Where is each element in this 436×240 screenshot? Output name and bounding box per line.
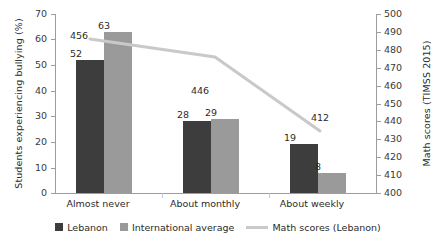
x-axis-category-label-about-weekly: About weekly xyxy=(254,198,370,209)
y-axis-right-tick-label: 420 xyxy=(384,152,414,162)
y-right-tick xyxy=(377,121,381,122)
bar-international-about-monthly xyxy=(211,119,239,193)
y-axis-left-tick-label: 70 xyxy=(21,9,47,19)
y-right-tick xyxy=(377,50,381,51)
chart-container: Students experiencing bullying (%) 70 60… xyxy=(0,0,436,240)
y-right-tick xyxy=(377,32,381,33)
line-value-label: 456 xyxy=(62,30,96,41)
legend-label: Math scores (Lebanon) xyxy=(272,222,380,233)
legend-label: International average xyxy=(132,222,235,233)
y-axis-left-tick-label: 40 xyxy=(21,86,47,96)
y-axis-left-tick-label: 10 xyxy=(21,163,47,173)
bar-value-label: 19 xyxy=(275,132,305,143)
bar-international-almost-never xyxy=(104,32,132,193)
y-right-tick xyxy=(377,14,381,15)
y-axis-right-tick-label: 400 xyxy=(384,188,414,198)
y-axis-right-tick-label: 410 xyxy=(384,170,414,180)
x-axis-line xyxy=(55,193,377,194)
legend-swatch-square-icon xyxy=(120,223,128,231)
y-axis-right-tick-label: 430 xyxy=(384,134,414,144)
y-axis-right-tick-label: 450 xyxy=(384,99,414,109)
bar-international-about-weekly xyxy=(318,173,346,193)
y-right-tick xyxy=(377,157,381,158)
y-right-tick xyxy=(377,68,381,69)
y-right-tick xyxy=(377,193,381,194)
y-axis-right-tick-label: 440 xyxy=(384,116,414,126)
legend-item-math-scores[interactable]: Math scores (Lebanon) xyxy=(246,222,380,233)
x-axis-category-label-almost-never: Almost never xyxy=(40,198,156,209)
line-value-label: 412 xyxy=(303,112,337,123)
bar-value-label: 29 xyxy=(196,107,226,118)
y-right-tick xyxy=(377,139,381,140)
legend-line-icon xyxy=(246,226,268,229)
line-value-label: 446 xyxy=(183,85,217,96)
bar-lebanon-about-monthly xyxy=(183,121,211,193)
legend-swatch-square-icon xyxy=(55,223,63,231)
y-axis-right-tick-label: 460 xyxy=(384,81,414,91)
y-right-tick xyxy=(377,104,381,105)
y-axis-left-tick-label: 60 xyxy=(21,34,47,44)
y-right-tick xyxy=(377,175,381,176)
y-axis-right-tick-label: 470 xyxy=(384,63,414,73)
y-axis-right-tick-label: 500 xyxy=(384,9,414,19)
y-right-tick xyxy=(377,86,381,87)
y-left-tick xyxy=(51,142,55,143)
y-left-tick xyxy=(51,91,55,92)
y-axis-right-tick-label: 490 xyxy=(384,27,414,37)
legend-item-lebanon[interactable]: Lebanon xyxy=(55,222,108,233)
y-axis-left-tick-label: 50 xyxy=(21,60,47,70)
x-axis-category-label-about-monthly: About monthly xyxy=(147,198,263,209)
legend-item-international-average[interactable]: International average xyxy=(120,222,235,233)
bar-value-label: 28 xyxy=(168,109,198,120)
y-axis-left-tick-label: 30 xyxy=(21,111,47,121)
legend-label: Lebanon xyxy=(67,222,108,233)
y-axis-right-title: Math scores (TIMSS 2015) xyxy=(421,14,432,194)
y-left-tick xyxy=(51,39,55,40)
bar-value-label: 8 xyxy=(303,161,333,172)
y-axis-left-tick-label: 0 xyxy=(21,188,47,198)
y-axis-right-tick-label: 480 xyxy=(384,45,414,55)
bar-lebanon-almost-never xyxy=(76,60,104,193)
bar-value-label: 52 xyxy=(61,48,91,59)
y-left-tick xyxy=(51,14,55,15)
y-left-tick xyxy=(51,116,55,117)
y-left-tick xyxy=(51,65,55,66)
y-left-tick xyxy=(51,168,55,169)
y-axis-left-tick-label: 20 xyxy=(21,137,47,147)
chart-legend: Lebanon International average Math score… xyxy=(0,219,436,235)
